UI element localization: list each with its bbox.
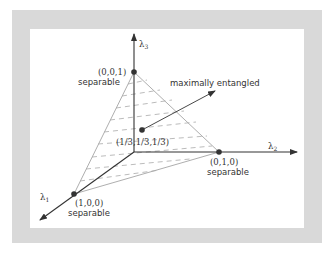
simplex-hatching (80, 80, 212, 181)
axis-label-lambda2: λ2 (268, 141, 277, 152)
simplex-edges (74, 72, 219, 194)
label-010-coords: (0,1,0) (210, 157, 238, 167)
point-010 (216, 149, 222, 155)
axes (40, 34, 297, 220)
point-001 (131, 69, 137, 75)
point-100 (71, 191, 77, 197)
label-001-caption: separable (78, 77, 120, 87)
annotation-maximally-entangled: maximally entangled (170, 78, 260, 88)
label-100-caption: separable (68, 208, 110, 218)
simplex-diagram: λ3 λ2 λ1 (0,0,1) separable (0,1,0) separ… (0, 0, 333, 255)
label-center-coords: (1/3,1/3,1/3) (116, 137, 169, 147)
point-center (139, 127, 145, 133)
axis-label-lambda3: λ3 (139, 39, 148, 50)
label-001-coords: (0,0,1) (98, 67, 126, 77)
label-100-coords: (1,0,0) (75, 198, 103, 208)
axis-label-lambda1: λ1 (40, 192, 49, 203)
label-010-caption: separable (207, 167, 249, 177)
